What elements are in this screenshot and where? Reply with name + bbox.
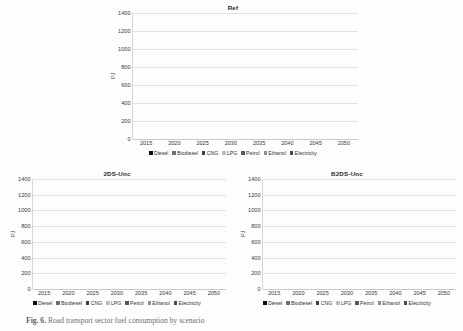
bar-slot[interactable] xyxy=(161,13,189,139)
x-tick-label: 2025 xyxy=(81,289,105,298)
legend-item-diesel[interactable]: Diesel xyxy=(33,300,52,306)
legend-swatch-icon xyxy=(125,301,128,304)
legend-swatch-icon xyxy=(264,151,267,154)
y-tick-label: 600 xyxy=(21,239,30,245)
bar-slot[interactable] xyxy=(246,13,274,139)
bar-slot[interactable] xyxy=(302,13,330,139)
legend-item-cng[interactable]: CNG xyxy=(202,150,218,156)
legend-swatch-icon xyxy=(378,301,381,304)
plot-canvas-2ds-unc xyxy=(32,179,226,289)
legend-item-diesel[interactable]: Diesel xyxy=(149,150,168,156)
y-tick-label: 200 xyxy=(121,118,130,124)
legend-label: Electricity xyxy=(295,150,317,156)
bar-slot[interactable] xyxy=(57,179,81,289)
bar-slot[interactable] xyxy=(33,179,57,289)
legend-item-ethanol[interactable]: Ethanol xyxy=(378,300,400,306)
chart-panel-2ds-unc: 2DS-Unc PJ 0200400600800100012001400 201… xyxy=(8,170,226,310)
plot-canvas-b2ds-unc xyxy=(262,179,456,289)
bar-slot[interactable] xyxy=(189,13,217,139)
x-axis-ref: 20152020202520302035204020452050 xyxy=(108,139,358,148)
figure-caption: Fig. 6. Road transport sector fuel consu… xyxy=(26,316,446,325)
chart-title-ref: Ref xyxy=(108,4,358,13)
figure-caption-text: Road transport sector fuel consumption b… xyxy=(48,316,204,325)
legend-item-ethanol[interactable]: Ethanol xyxy=(148,300,170,306)
legend-label: Ethanol xyxy=(152,300,170,306)
bar-slot[interactable] xyxy=(263,179,287,289)
bar-slot[interactable] xyxy=(217,13,245,139)
bar-slot[interactable] xyxy=(178,179,202,289)
legend-swatch-icon xyxy=(86,301,89,304)
x-axis-ticks-b2ds-unc: 20152020202520302035204020452050 xyxy=(262,289,456,298)
y-tick-label: 800 xyxy=(121,64,130,70)
legend-label: LPG xyxy=(227,150,237,156)
plot-canvas-ref xyxy=(132,13,358,139)
gridline xyxy=(33,289,226,290)
legend-label: Petrol xyxy=(130,300,144,306)
legend-swatch-icon xyxy=(241,151,244,154)
legend-item-petrol[interactable]: Petrol xyxy=(355,300,373,306)
legend-item-lpg[interactable]: LPG xyxy=(106,300,121,306)
bar-slot[interactable] xyxy=(432,179,456,289)
x-tick-label: 2025 xyxy=(311,289,335,298)
chart-panel-b2ds-unc: B2DS-Unc PJ 0200400600800100012001400 20… xyxy=(238,170,456,310)
legend-item-ethanol[interactable]: Ethanol xyxy=(264,150,286,156)
x-tick-label: 2015 xyxy=(32,289,56,298)
legend-swatch-icon xyxy=(336,301,339,304)
y-tick-label: 0 xyxy=(127,136,130,142)
legend-item-electricity[interactable]: Electricity xyxy=(174,300,201,306)
bar-slot[interactable] xyxy=(330,13,358,139)
legend-ref: DieselBiodieselCNGLPGPetrolEthanolElectr… xyxy=(108,150,358,156)
bar-group-b2ds-unc xyxy=(263,179,456,289)
bar-slot[interactable] xyxy=(287,179,311,289)
bar-slot[interactable] xyxy=(408,179,432,289)
legend-item-lpg[interactable]: LPG xyxy=(222,150,237,156)
legend-item-petrol[interactable]: Petrol xyxy=(125,300,143,306)
bar-slot[interactable] xyxy=(311,179,335,289)
bar-slot[interactable] xyxy=(154,179,178,289)
y-tick-label: 1200 xyxy=(118,28,130,34)
bar-slot[interactable] xyxy=(335,179,359,289)
bar-slot[interactable] xyxy=(274,13,302,139)
legend-item-cng[interactable]: CNG xyxy=(316,300,332,306)
bar-slot[interactable] xyxy=(130,179,154,289)
legend-item-electricity[interactable]: Electricity xyxy=(290,150,317,156)
bar-slot[interactable] xyxy=(360,179,384,289)
bar-slot[interactable] xyxy=(105,179,129,289)
legend-item-electricity[interactable]: Electricity xyxy=(404,300,431,306)
x-axis-ticks-2ds-unc: 20152020202520302035204020452050 xyxy=(32,289,226,298)
x-tick-label: 2030 xyxy=(335,289,359,298)
legend-swatch-icon xyxy=(263,301,266,304)
legend-item-cng[interactable]: CNG xyxy=(86,300,102,306)
legend-label: Electricity xyxy=(409,300,431,306)
legend-label: Diesel xyxy=(268,300,282,306)
x-tick-label: 2050 xyxy=(432,289,456,298)
legend-label: Petrol xyxy=(360,300,374,306)
bar-slot[interactable] xyxy=(384,179,408,289)
y-tick-label: 200 xyxy=(21,270,30,276)
legend-item-petrol[interactable]: Petrol xyxy=(241,150,259,156)
plot-area-ref: PJ 0200400600800100012001400 xyxy=(108,13,358,139)
legend-label: Biodiesel xyxy=(291,300,312,306)
legend-item-diesel[interactable]: Diesel xyxy=(263,300,282,306)
x-tick-label: 2025 xyxy=(189,139,217,148)
legend-item-lpg[interactable]: LPG xyxy=(336,300,351,306)
bar-slot[interactable] xyxy=(81,179,105,289)
x-tick-label: 2035 xyxy=(359,289,383,298)
bar-slot[interactable] xyxy=(202,179,226,289)
legend-swatch-icon xyxy=(222,151,225,154)
bar-slot[interactable] xyxy=(133,13,161,139)
chart-panel-ref: Ref PJ 0200400600800100012001400 2015202… xyxy=(108,4,358,162)
legend-swatch-icon xyxy=(355,301,358,304)
legend-item-biodiesel[interactable]: Biodiesel xyxy=(56,300,82,306)
legend-item-biodiesel[interactable]: Biodiesel xyxy=(172,150,198,156)
x-axis-2ds-unc: 20152020202520302035204020452050 xyxy=(8,289,226,298)
x-tick-label: 2030 xyxy=(217,139,245,148)
x-axis-b2ds-unc: 20152020202520302035204020452050 xyxy=(238,289,456,298)
y-tick-label: 1000 xyxy=(248,207,260,213)
x-tick-label: 2015 xyxy=(132,139,160,148)
x-tick-label: 2045 xyxy=(302,139,330,148)
y-axis-label-ref: PJ xyxy=(108,13,117,139)
x-tick-label: 2040 xyxy=(273,139,301,148)
legend-item-biodiesel[interactable]: Biodiesel xyxy=(286,300,312,306)
y-tick-label: 1400 xyxy=(118,10,130,16)
